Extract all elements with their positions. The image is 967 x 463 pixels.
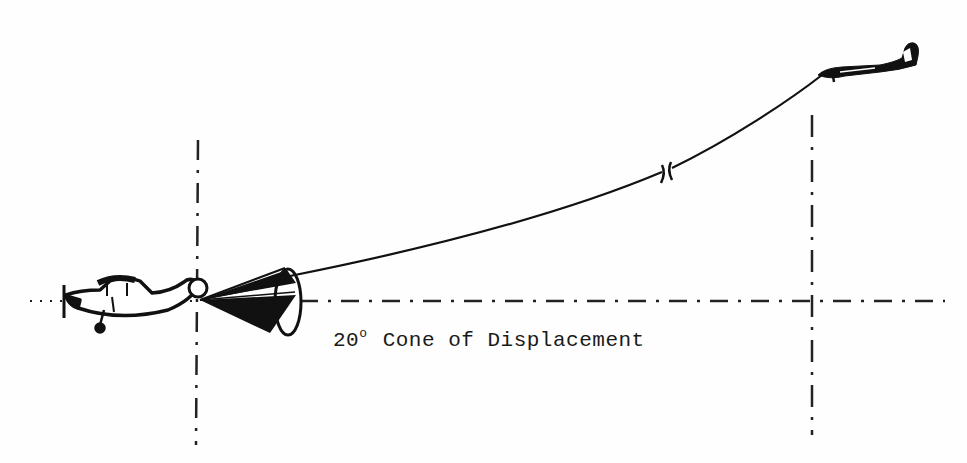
cone-of-displacement-label: 20o Cone of Displacement [333,326,645,352]
diagram-svg [0,0,967,463]
cone-angle: 20 [333,329,359,352]
tow-line [290,75,822,276]
tow-aircraft [818,43,919,82]
drogue-cone [200,268,301,335]
line-break-mark [661,165,664,183]
degree-symbol: o [359,326,367,341]
towed-aircraft [64,278,207,332]
diagram-canvas: 20o Cone of Displacement [0,0,967,463]
caption-text: Cone of Displacement [383,329,645,352]
